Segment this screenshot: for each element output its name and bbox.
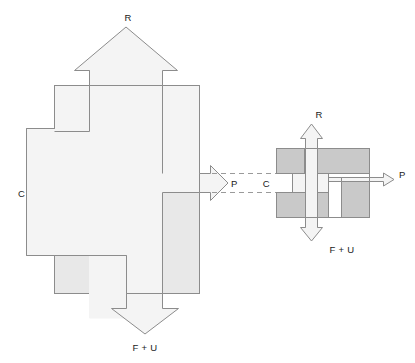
small-band-upper-left [277, 149, 305, 174]
label-output-P-large: P [231, 178, 238, 189]
small-output-arrow-P [370, 173, 395, 186]
output-arrow-P [200, 166, 229, 201]
label-output-R-large: R [124, 12, 131, 23]
label-output-P-small: P [399, 169, 406, 180]
small-flow-diagram: C R F + U P [263, 109, 406, 255]
small-central-column [306, 138, 318, 230]
label-output-F-plus-U-small: F + U [330, 244, 355, 255]
small-band-lower-left [277, 193, 329, 218]
small-output-arrow-R [301, 124, 323, 149]
sankey-diagram-canvas: C R F + U P [0, 0, 415, 363]
label-input-C-large: C [18, 188, 25, 199]
small-output-arrow-F-plus-U [301, 218, 323, 242]
small-band-upper-right [318, 149, 370, 174]
band-lower-right-shaded [163, 193, 200, 294]
label-input-C-small: C [263, 178, 270, 189]
figure-root: C R F + U P [0, 0, 415, 363]
small-band-lower-right [342, 178, 370, 218]
label-output-R-small: R [315, 109, 322, 120]
label-output-F-plus-U-large: F + U [133, 342, 158, 353]
large-flow-diagram: C R F + U P [18, 12, 238, 353]
